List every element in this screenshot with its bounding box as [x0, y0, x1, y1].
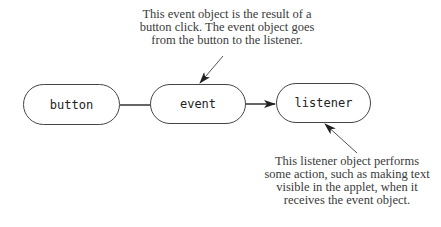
event-annotation-line: from the button to the listener.	[127, 34, 327, 47]
callout-arrow-event	[200, 56, 223, 83]
callout-arrow-listener	[325, 124, 357, 153]
event-annotation: This event object is the result of a but…	[127, 8, 327, 47]
node-button: button	[23, 84, 120, 125]
node-listener-label: listener	[295, 96, 353, 110]
listener-annotation-line: receives the event object.	[247, 194, 441, 207]
node-listener: listener	[276, 83, 371, 123]
node-button-label: button	[50, 98, 93, 112]
node-event: event	[150, 84, 246, 124]
node-event-label: event	[180, 97, 216, 111]
listener-annotation: This listener object performs some actio…	[247, 155, 441, 207]
